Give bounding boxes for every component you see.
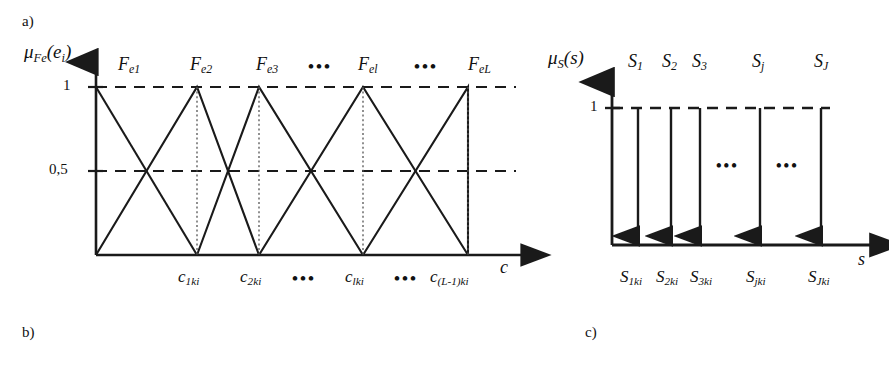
panel-b-ytick-label-half: 0,5	[49, 162, 68, 177]
panel-c-xtick-label-S2ki: S2ki	[656, 268, 678, 287]
panel-c-xtick-label-S3ki: S3ki	[690, 268, 712, 287]
panel-b-y-axis-arg: (e	[47, 41, 62, 62]
xtick-ellipsis-2: •••	[394, 270, 418, 287]
set-label-Fe3-base: F	[256, 54, 267, 74]
xtick-label-cL1ki: c(L-1)ki	[430, 268, 469, 287]
membership-curve-Fe3	[197, 87, 363, 255]
xtick-label-c2ki-base: c	[240, 267, 248, 286]
panel-c-xtick-label-S1ki: S1ki	[620, 268, 642, 287]
panel-c-xtick-S3ki-sub: 3ki	[699, 275, 713, 287]
singleton-label-SJ-base: S	[814, 51, 823, 71]
xtick-label-clki-sub: lki	[353, 275, 364, 287]
singleton-label-S2-base: S	[662, 51, 671, 71]
xtick-label-clki-base: c	[345, 267, 353, 286]
panel-c-ellipsis-1: •••	[716, 158, 739, 174]
panel-c-xtick-S2ki-base: S	[656, 267, 665, 286]
singleton-label-S3: S3	[692, 52, 707, 73]
panel-c-y-axis-arg: (s)	[564, 47, 584, 68]
set-label-Fe1-sub: e1	[129, 62, 140, 76]
xtick-label-c2ki-sub: 2ki	[248, 275, 262, 287]
set-label-Fe2: Fe2	[190, 55, 212, 76]
panel-c-xtick-label-SJki: SJki	[808, 268, 830, 287]
panel-c-xtick-SJki-base: S	[808, 267, 817, 286]
xtick-label-c2ki: c2ki	[240, 268, 261, 287]
set-label-Fel-base: F	[358, 54, 369, 74]
panel-b-y-axis-close: )	[65, 41, 71, 62]
singleton-label-Sj: Sj	[752, 52, 764, 73]
set-label-FeL: FeL	[468, 55, 491, 76]
panel-tag-b: b)	[22, 325, 35, 340]
panel-c-xtick-S1ki-sub: 1ki	[629, 275, 643, 287]
set-label-Fe2-base: F	[190, 54, 201, 74]
xtick-label-clki: clki	[345, 268, 364, 287]
xtick-label-c1ki: c1ki	[178, 268, 199, 287]
panel-c-y-axis-label: μS(s)	[548, 48, 584, 70]
panel-c-xtick-Sjki-base: S	[746, 267, 755, 286]
set-label-Fe2-sub: e2	[201, 62, 212, 76]
set-label-ellipsis-2: •••	[414, 58, 438, 75]
set-label-FeL-base: F	[468, 54, 479, 74]
singleton-label-S1-base: S	[628, 51, 637, 71]
panel-c-ytick-label-one: 1	[590, 99, 598, 114]
singleton-label-S2: S2	[662, 52, 677, 73]
panel-c-xtick-label-Sjki: Sjki	[746, 268, 766, 287]
set-label-Fe1-base: F	[118, 54, 129, 74]
xtick-label-c1ki-base: c	[178, 267, 186, 286]
panel-b-membership-curves	[96, 87, 468, 255]
panel-c-xtick-S2ki-sub: 2ki	[665, 275, 679, 287]
xtick-ellipsis-1: •••	[292, 270, 316, 287]
xtick-label-cL1ki-base: c	[430, 267, 438, 286]
set-label-Fel-sub: el	[369, 62, 378, 76]
set-label-Fe3: Fe3	[256, 55, 278, 76]
panel-b-y-axis-mu-sub: Fe	[34, 51, 47, 65]
panel-c-xtick-S1ki-base: S	[620, 267, 629, 286]
xtick-label-c1ki-sub: 1ki	[186, 275, 200, 287]
panel-c-xtick-S3ki-base: S	[690, 267, 699, 286]
set-label-FeL-sub: eL	[479, 62, 491, 76]
panel-c-x-axis-label: s	[858, 250, 865, 268]
singleton-label-S3-sub: 3	[701, 59, 707, 73]
set-label-Fe1: Fe1	[118, 55, 140, 76]
singleton-label-S1-sub: 1	[637, 59, 643, 73]
set-label-Fe3-sub: e3	[267, 62, 278, 76]
panel-c-xtick-Sjki-sub: jki	[755, 275, 766, 287]
singleton-label-S2-sub: 2	[671, 59, 677, 73]
panel-b-y-axis-label: μFe(ei)	[24, 42, 71, 64]
panel-c-y-axis-mu: μ	[548, 47, 558, 68]
singleton-label-SJ: SJ	[814, 52, 828, 73]
xtick-label-cL1ki-sub: (L-1)ki	[438, 275, 469, 287]
figure-container: μFe(ei) 1 0,5 Fe1 Fe2 Fe3 Fel FeL ••• ••…	[0, 0, 889, 367]
panel-c-xtick-SJki-sub: Jki	[817, 275, 830, 287]
set-label-ellipsis-1: •••	[308, 58, 332, 75]
singleton-label-S3-base: S	[692, 51, 701, 71]
panel-c-ellipsis-2: •••	[776, 158, 799, 174]
panel-b-axes	[96, 62, 523, 255]
singleton-label-S1: S1	[628, 52, 643, 73]
panel-b-y-axis-mu: μ	[24, 41, 34, 62]
singleton-label-Sj-sub: j	[761, 59, 764, 73]
set-label-Fel: Fel	[358, 55, 378, 76]
panel-b-x-axis-label: c	[500, 258, 508, 276]
panel-b-ytick-label-one: 1	[63, 78, 71, 93]
panel-tag-a: a)	[22, 14, 34, 29]
panel-tag-c: c)	[585, 325, 597, 340]
singleton-label-Sj-base: S	[752, 51, 761, 71]
singleton-label-SJ-sub: J	[823, 59, 828, 73]
